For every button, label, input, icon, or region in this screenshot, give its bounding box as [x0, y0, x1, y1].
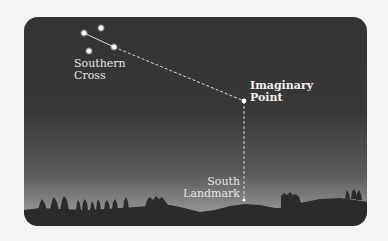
- southern-cross-label: Southern Cross: [74, 58, 126, 82]
- south-landmark-label: South Landmark: [182, 176, 240, 200]
- south-landmark-marker: [242, 198, 245, 201]
- imaginary-point-label: Imaginary Point: [250, 80, 313, 104]
- extension-dashed-line: [114, 47, 244, 101]
- night-sky-diagram: Southern Cross Imaginary Point South Lan…: [24, 17, 367, 226]
- imaginary-point-marker: [242, 99, 247, 104]
- cross-axis-line: [84, 33, 114, 47]
